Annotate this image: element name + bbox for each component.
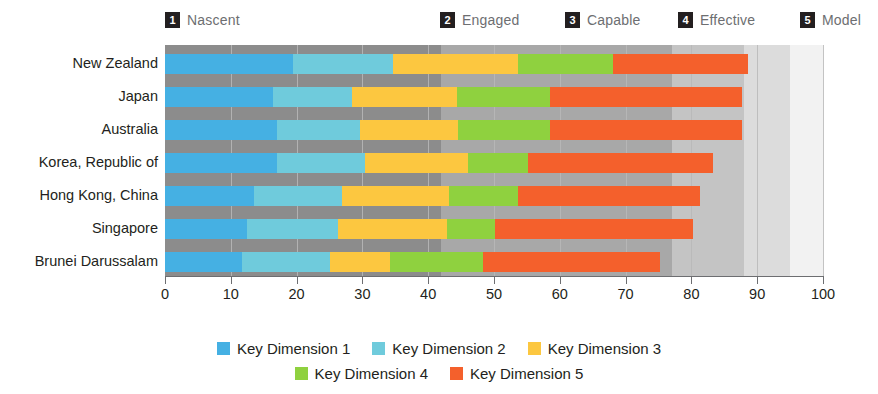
bar-segment-dim2 [273,87,352,107]
bar-segment-dim2 [247,219,338,239]
y-axis-label: New Zealand [0,53,158,73]
bar-segment-dim2 [277,120,360,140]
bar-row [165,87,823,107]
legend-label: Key Dimension 3 [548,340,661,357]
bar-segment-dim5 [528,153,713,173]
x-tick-label: 0 [161,286,169,302]
bar-segment-dim1 [165,54,293,74]
x-tick-mark [494,276,495,284]
stage-label: Nascent [187,12,240,28]
bar-segment-dim4 [458,120,550,140]
legend-swatch-icon [295,367,308,380]
y-axis-label: Singapore [0,218,158,238]
bar-segment-dim3 [360,120,458,140]
legend-row-2: Key Dimension 4Key Dimension 5 [0,361,878,386]
bar-segment-dim3 [352,87,457,107]
legend: Key Dimension 1Key Dimension 2Key Dimens… [0,336,878,386]
bar-segment-dim3 [365,153,468,173]
stage-header-item-3: 3Capable [565,12,641,28]
legend-item[interactable]: Key Dimension 3 [528,340,661,357]
x-tick-mark [428,276,429,284]
bar-segment-dim1 [165,153,277,173]
legend-item[interactable]: Key Dimension 2 [372,340,505,357]
bar-segment-dim2 [293,54,393,74]
x-tick-mark [165,276,166,284]
x-tick-mark [231,276,232,284]
bar-segment-dim5 [518,186,700,206]
bar-segment-dim4 [457,87,550,107]
x-tick-label: 80 [683,286,699,302]
bar-segment-dim5 [613,54,748,74]
x-tick-mark [560,276,561,284]
plot-area [165,45,823,276]
legend-item[interactable]: Key Dimension 5 [450,365,583,382]
x-axis: 0102030405060708090100 [165,276,825,306]
legend-item[interactable]: Key Dimension 1 [217,340,350,357]
stage-number-badge: 3 [565,12,580,28]
bar-row [165,252,823,272]
legend-row-1: Key Dimension 1Key Dimension 2Key Dimens… [0,336,878,361]
stage-header-item-5: 5Model [800,12,861,28]
x-tick-mark [362,276,363,284]
bar-row [165,54,823,74]
x-tick-label: 70 [618,286,634,302]
bar-segment-dim2 [254,186,342,206]
bar-segment-dim1 [165,87,273,107]
x-tick-mark [626,276,627,284]
bar-segment-dim4 [468,153,529,173]
bar-row [165,120,823,140]
y-axis-labels: New ZealandJapanAustraliaKorea, Republic… [0,45,158,276]
legend-swatch-icon [372,342,385,355]
x-tick-label: 50 [486,286,502,302]
legend-swatch-icon [450,367,463,380]
bar-segment-dim2 [242,252,330,272]
bar-segment-dim1 [165,186,254,206]
stacked-bar-chart: 1Nascent2Engaged3Capable4Effective5Model… [0,0,878,394]
legend-label: Key Dimension 1 [237,340,350,357]
stage-label: Engaged [462,12,519,28]
legend-swatch-icon [217,342,230,355]
bar-row [165,219,823,239]
legend-label: Key Dimension 4 [315,365,428,382]
stage-label: Effective [700,12,755,28]
bar-segment-dim2 [277,153,365,173]
bar-segment-dim3 [330,252,390,272]
bar-row [165,153,823,173]
bar-segment-dim1 [165,120,277,140]
x-tick-mark [757,276,758,284]
x-tick-label: 100 [811,286,835,302]
stage-label: Model [822,12,861,28]
gridline-100 [823,45,824,276]
stage-label: Capable [587,12,641,28]
x-tick-label: 30 [354,286,370,302]
bar-rows [165,45,823,276]
stage-header: 1Nascent2Engaged3Capable4Effective5Model [0,12,878,36]
x-tick-mark [691,276,692,284]
stage-number-badge: 2 [440,12,455,28]
bar-segment-dim1 [165,252,242,272]
y-axis-label: Korea, Republic of [0,152,158,172]
bar-segment-dim4 [449,186,517,206]
bar-row [165,186,823,206]
x-tick-label: 20 [289,286,305,302]
stage-number-badge: 5 [800,12,815,28]
legend-label: Key Dimension 5 [470,365,583,382]
x-tick-mark [297,276,298,284]
stage-header-item-2: 2Engaged [440,12,519,28]
bar-segment-dim4 [518,54,613,74]
y-axis-label: Japan [0,86,158,106]
legend-swatch-icon [528,342,541,355]
bar-segment-dim3 [393,54,517,74]
legend-label: Key Dimension 2 [392,340,505,357]
stage-number-badge: 1 [165,12,180,28]
bar-segment-dim5 [483,252,660,272]
bar-segment-dim4 [447,219,495,239]
stage-header-item-1: 1Nascent [165,12,240,28]
legend-item[interactable]: Key Dimension 4 [295,365,428,382]
y-axis-label: Brunei Darussalam [0,251,158,271]
x-tick-label: 90 [749,286,765,302]
bar-segment-dim5 [550,120,742,140]
y-axis-label: Australia [0,119,158,139]
x-tick-mark [823,276,824,284]
y-axis-label: Hong Kong, China [0,185,158,205]
